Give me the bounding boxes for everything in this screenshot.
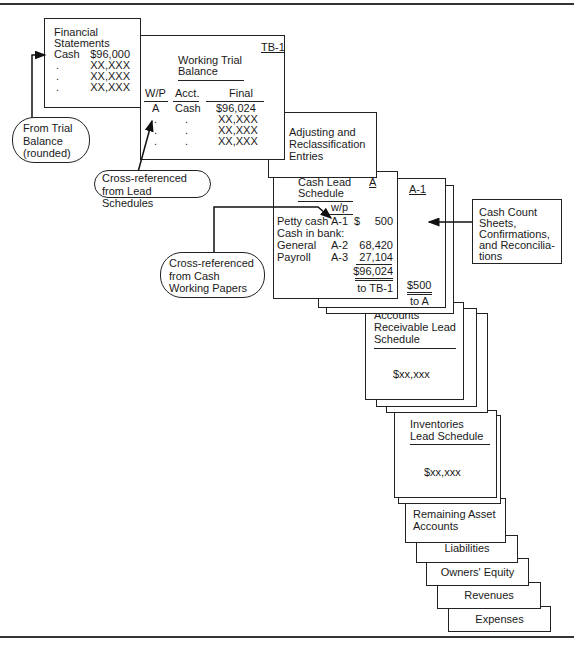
remaining-asset-line2: Accounts	[413, 520, 458, 533]
tb-row4-wp: .	[154, 135, 157, 148]
callout-from-trial-balance: From Trial Balance (rounded)	[12, 117, 90, 163]
ar-lead-box: Accounts Receivable Lead Schedule $xx,xx…	[365, 302, 464, 400]
ar-line2: Receivable Lead	[374, 321, 456, 334]
owners-equity-label: Owners' Equity	[427, 566, 528, 579]
row-payroll-label: Payroll	[277, 251, 311, 264]
callout-ftb-line1: From Trial	[23, 122, 79, 135]
tb-title-underline	[178, 80, 244, 81]
callout-fcwp-line2: from Cash	[169, 270, 256, 283]
adjusting-line2: Reclassification	[289, 138, 365, 151]
remaining-asset-box: Remaining Asset Accounts	[405, 498, 506, 543]
callout-from-lead-schedules: Cross-referenced from Lead Schedules	[94, 170, 211, 198]
tb-header-acct: Acct.	[175, 87, 199, 100]
cash-lead-schedule-box: Cash Lead Schedule A w/p Petty cash A-1 …	[273, 171, 398, 299]
tb-header-wp: W/P	[145, 87, 166, 100]
working-trial-balance-box: TB-1 Working Trial Balance W/P Acct. Fin…	[140, 35, 285, 160]
row-payroll-amount: 27,104	[359, 251, 393, 264]
callout-fls-line1: Cross-referenced	[102, 172, 203, 185]
row-general-amount: 68,420	[359, 239, 393, 252]
cash-lead-wp-header: w/p	[331, 201, 348, 214]
callout-from-cash-working-papers: Cross-referenced from Cash Working Paper…	[160, 252, 265, 298]
inventories-underline	[410, 444, 490, 445]
ar-line3: Schedule	[374, 333, 420, 346]
row-petty-cash-amount: 500	[375, 215, 393, 228]
cash-lead-total-double-underline	[355, 278, 393, 281]
tb-row4-final: XX,XXX	[218, 135, 258, 148]
cash-lead-title-line2: Schedule	[298, 187, 344, 200]
cash-lead-total: $96,024	[353, 265, 393, 278]
row-general-label: General	[277, 239, 316, 252]
tb-title-line2: Balance	[178, 65, 218, 78]
row-petty-cash-label: Petty cash	[277, 215, 328, 228]
adjusting-line3: Entries	[289, 150, 323, 163]
cash-count-ref: A-1	[409, 183, 426, 196]
tb-header-final: Final	[229, 87, 253, 100]
revenues-label: Revenues	[438, 589, 540, 602]
inventories-value: $xx,xxx	[424, 466, 461, 479]
expenses-box: Expenses	[448, 606, 551, 632]
inventories-line1: Inventories	[410, 418, 464, 431]
fs-row4-label: .	[56, 81, 59, 94]
fs-row4-value: XX,XXX	[90, 81, 130, 94]
ar-value: $xx,xxx	[393, 368, 430, 381]
inventories-lead-box: Inventories Lead Schedule $xx,xxx	[394, 410, 497, 498]
row-general-wp: A-2	[331, 239, 348, 252]
row-petty-cash-currency: $	[354, 215, 360, 228]
ar-underline	[374, 348, 456, 349]
tb-row4-acct: .	[185, 135, 188, 148]
revenues-box: Revenues	[437, 582, 541, 609]
callout-fcwp-line3: Working Papers	[169, 282, 256, 295]
cash-count-note-line5: tions	[479, 250, 502, 263]
tb-ref: TB-1	[261, 41, 285, 54]
row-petty-cash-wp: A-1	[331, 215, 348, 228]
row-cash-in-bank-label: Cash in bank:	[277, 227, 344, 240]
callout-fls-line2: from Lead Schedules	[102, 185, 203, 210]
expenses-label: Expenses	[449, 613, 550, 626]
cash-count-total: $500	[407, 279, 431, 292]
callout-fcwp-line1: Cross-referenced	[169, 257, 256, 270]
callout-ftb-line3: (rounded)	[23, 147, 79, 160]
top-rule	[0, 3, 574, 5]
adjusting-line1: Adjusting and	[289, 126, 356, 139]
bottom-rule	[0, 636, 574, 638]
callout-ftb-line2: Balance	[23, 135, 79, 148]
financial-statements-box: Financial Statements Cash $96,000 . XX,X…	[44, 18, 141, 108]
liabilities-label: Liabilities	[417, 542, 517, 555]
cash-lead-total-ref: to TB-1	[357, 282, 393, 295]
cash-count-note-box: Cash Count Sheets, Confirmations, and Re…	[472, 199, 562, 264]
inventories-line2: Lead Schedule	[410, 430, 483, 443]
row-payroll-wp: A-3	[331, 251, 348, 264]
cash-count-total-ref: to A	[410, 295, 429, 308]
remaining-asset-line1: Remaining Asset	[413, 508, 496, 521]
